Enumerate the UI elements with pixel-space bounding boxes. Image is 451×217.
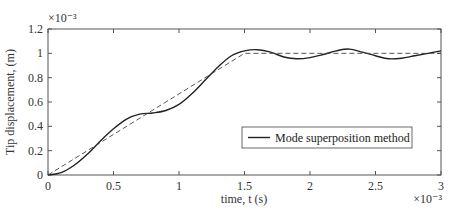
y-axis-label: Tip displacement, (m) [3,49,17,155]
x-tick-label: 0.5 [106,179,121,193]
x-tick-label: 0 [45,179,51,193]
x-axis-label: time, t (s) [221,192,267,206]
x-tick-label: 1 [176,179,182,193]
y-tick-label: 0.6 [28,95,43,109]
x-multiplier-label: ×10⁻³ [413,192,442,206]
y-tick-label: 0 [37,168,43,182]
y-tick-label: 0.2 [28,144,43,158]
y-tick-label: 1 [37,46,43,60]
x-tick-label: 2 [307,179,313,193]
y-multiplier-label: ×10⁻³ [48,11,77,25]
y-tick-label: 1.2 [28,22,43,36]
y-multiplier: ×10⁻³ [48,11,77,25]
reference-dashed-line [48,53,441,175]
x-tick-label: 1.5 [237,179,252,193]
series-lines [48,49,441,175]
chart: ×10⁻³ 00.20.40.60.811.2 00.511.522.53 ti… [0,0,451,217]
y-axis-ticks: 00.20.40.60.811.2 [28,22,441,182]
legend: Mode superposition method [242,127,412,148]
x-tick-label: 2.5 [368,179,383,193]
mode-superposition-line [48,49,441,175]
x-tick-label: 3 [438,179,444,193]
y-tick-label: 0.8 [28,71,43,85]
y-tick-label: 0.4 [28,119,43,133]
legend-entry-label: Mode superposition method [275,131,410,145]
